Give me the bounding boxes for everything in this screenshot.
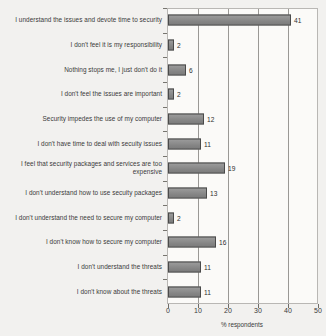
y-axis-tick bbox=[163, 107, 167, 108]
bar-row: Security impedes the use of my computer1… bbox=[0, 107, 326, 132]
value-label: 11 bbox=[204, 140, 211, 147]
x-tick-label: 0 bbox=[166, 307, 170, 314]
value-label: 6 bbox=[189, 66, 193, 73]
bar-row: I don't understand how to use secuity pa… bbox=[0, 181, 326, 206]
x-axis-title: % respondents bbox=[221, 321, 263, 328]
y-axis-tick bbox=[163, 8, 167, 9]
bar-container: 19 bbox=[168, 156, 318, 181]
value-label: 2 bbox=[177, 41, 181, 48]
value-label: 11 bbox=[204, 288, 211, 295]
bar-row: I don't understand the need to secure my… bbox=[0, 205, 326, 230]
bar-container: 16 bbox=[168, 230, 318, 255]
category-label: I don't feel the issues are important bbox=[0, 90, 162, 98]
bar-container: 2 bbox=[168, 82, 318, 107]
y-axis-tick bbox=[163, 57, 167, 58]
category-label: I don't understand the threats bbox=[0, 263, 162, 271]
category-label: I don't understand how to use secuity pa… bbox=[0, 189, 162, 197]
value-label: 11 bbox=[204, 263, 211, 270]
value-label: 13 bbox=[210, 189, 217, 196]
x-tick-label: 30 bbox=[254, 307, 262, 314]
category-label: I don't know how to secure my computer bbox=[0, 238, 162, 246]
bar bbox=[168, 15, 291, 26]
bar-row: I don't feel it is my responsibility2 bbox=[0, 33, 326, 58]
bar-container: 11 bbox=[168, 255, 318, 280]
x-tick-label: 20 bbox=[224, 307, 232, 314]
category-label: Security impedes the use of my computer bbox=[0, 115, 162, 123]
y-axis-tick bbox=[163, 181, 167, 182]
y-axis-tick bbox=[163, 205, 167, 206]
y-axis-tick bbox=[163, 279, 167, 280]
category-label: I don't understand the need to secure my… bbox=[0, 214, 162, 222]
bar-row: I don't have time to deal with secuity i… bbox=[0, 131, 326, 156]
value-label: 2 bbox=[177, 91, 181, 98]
bar-row: Nothing stops me, I just don't do it6 bbox=[0, 57, 326, 82]
bar bbox=[168, 39, 174, 50]
bar-container: 13 bbox=[168, 181, 318, 206]
category-label: I don't have time to deal with secuity i… bbox=[0, 140, 162, 148]
bar-container: 6 bbox=[168, 57, 318, 82]
y-axis-tick bbox=[163, 230, 167, 231]
bar bbox=[168, 113, 204, 124]
bar bbox=[168, 64, 186, 75]
bar-chart: I understand the issues and devote time … bbox=[0, 0, 326, 336]
category-label: I feel that security packages and servic… bbox=[0, 160, 162, 176]
bar-row: I don't understand the threats11 bbox=[0, 255, 326, 280]
value-label: 19 bbox=[228, 165, 235, 172]
bar bbox=[168, 163, 225, 174]
value-label: 2 bbox=[177, 214, 181, 221]
x-tick-label: 50 bbox=[314, 307, 322, 314]
bar-container: 11 bbox=[168, 279, 318, 304]
bar bbox=[168, 212, 174, 223]
bar bbox=[168, 286, 201, 297]
y-axis-tick bbox=[163, 156, 167, 157]
bar bbox=[168, 237, 216, 248]
bar-container: 11 bbox=[168, 131, 318, 156]
y-axis-tick bbox=[163, 131, 167, 132]
bar-container: 12 bbox=[168, 107, 318, 132]
bar-container: 2 bbox=[168, 205, 318, 230]
bar bbox=[168, 261, 201, 272]
bar bbox=[168, 138, 201, 149]
value-label: 41 bbox=[294, 17, 301, 24]
bar-container: 2 bbox=[168, 33, 318, 58]
bar-container: 41 bbox=[168, 8, 318, 33]
category-label: I don't feel it is my responsibility bbox=[0, 41, 162, 49]
category-label: Nothing stops me, I just don't do it bbox=[0, 66, 162, 74]
bar-row: I don't know how to secure my computer16 bbox=[0, 230, 326, 255]
x-tick-label: 40 bbox=[284, 307, 292, 314]
bar-row: I feel that security packages and servic… bbox=[0, 156, 326, 181]
y-axis-tick bbox=[163, 33, 167, 34]
value-label: 16 bbox=[219, 239, 226, 246]
category-label: I understand the issues and devote time … bbox=[0, 16, 162, 24]
y-axis-tick bbox=[163, 255, 167, 256]
y-axis-tick bbox=[163, 82, 167, 83]
bar-row: I don't feel the issues are important2 bbox=[0, 82, 326, 107]
bar bbox=[168, 187, 207, 198]
value-label: 12 bbox=[207, 115, 214, 122]
bar bbox=[168, 89, 174, 100]
x-tick-label: 10 bbox=[194, 307, 202, 314]
bar-row: I don't know about the threats11 bbox=[0, 279, 326, 304]
bar-row: I understand the issues and devote time … bbox=[0, 8, 326, 33]
category-label: I don't know about the threats bbox=[0, 288, 162, 296]
